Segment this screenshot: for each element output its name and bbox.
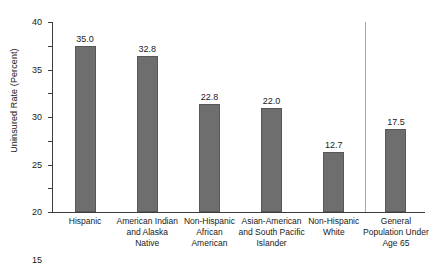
y-axis-line [52,22,53,212]
y-tick-mark: 35 [48,46,52,47]
y-tick-mark: 5 [48,188,52,189]
x-axis-category-label: GeneralPopulation UnderAge 65 [350,216,442,249]
y-tick-label: 40 [32,17,42,27]
y-tick-label: 35 [32,65,42,75]
y-tick-mark: 25 [48,93,52,94]
y-tick-mark: 30 [48,70,52,71]
bar: 22.8 [199,104,220,212]
x-axis-category-line: General [350,216,442,227]
bar-value-label: 17.5 [387,117,405,127]
bar: 22.0 [261,108,282,213]
x-axis-line [52,212,425,213]
y-axis-title: Uninsured Rate (Percent) [6,0,22,208]
y-tick-label: 15 [32,255,42,265]
bar: 32.8 [137,56,158,212]
plot-area: 0510152025303540 35.032.822.822.012.717.… [52,22,425,212]
y-tick-mark: 20 [48,117,52,118]
x-axis-category-line: Age 65 [350,238,442,249]
bar-value-label: 22.8 [201,92,219,102]
x-axis-category-line: Islander [226,238,318,249]
y-tick-label: 25 [32,160,42,170]
y-tick-mark: 15 [48,141,52,142]
bar: 17.5 [385,129,406,212]
bar-value-label: 35.0 [76,34,94,44]
bar-value-label: 22.0 [263,96,281,106]
bar-chart: Uninsured Rate (Percent) 051015202530354… [0,0,447,268]
y-tick-mark: 0 [48,212,52,213]
bar-value-label: 32.8 [138,44,156,54]
y-tick-mark: 40 [48,22,52,23]
x-axis-category-line: Population Under [350,227,442,238]
y-tick-mark: 10 [48,165,52,166]
group-separator [365,22,366,212]
bar: 35.0 [75,46,96,212]
bar-value-label: 12.7 [325,140,343,150]
bar: 12.7 [323,152,344,212]
y-tick-label: 30 [32,112,42,122]
